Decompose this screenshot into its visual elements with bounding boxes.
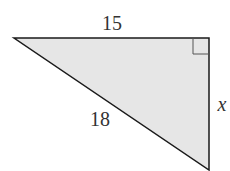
triangle-shape	[14, 38, 209, 170]
right-side-label: x	[217, 93, 227, 115]
hypotenuse-label: 18	[90, 108, 110, 130]
right-triangle-diagram: 15 18 x	[0, 0, 230, 171]
top-side-label: 15	[102, 12, 122, 34]
